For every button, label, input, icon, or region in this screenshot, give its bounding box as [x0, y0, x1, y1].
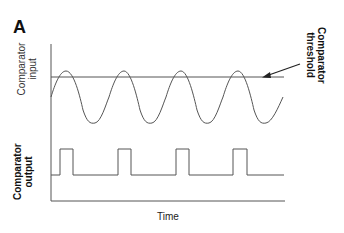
comparator-diagram: A Comparator input Comparator output Com…: [0, 0, 344, 233]
diagram-plot: [0, 0, 344, 233]
comparator-input-sine-wave: [51, 71, 283, 123]
threshold-arrow: [266, 64, 300, 76]
x-axis-label: Time: [148, 211, 188, 222]
arrow-head-icon: [262, 72, 271, 78]
comparator-output-pulse-train: [51, 149, 284, 175]
